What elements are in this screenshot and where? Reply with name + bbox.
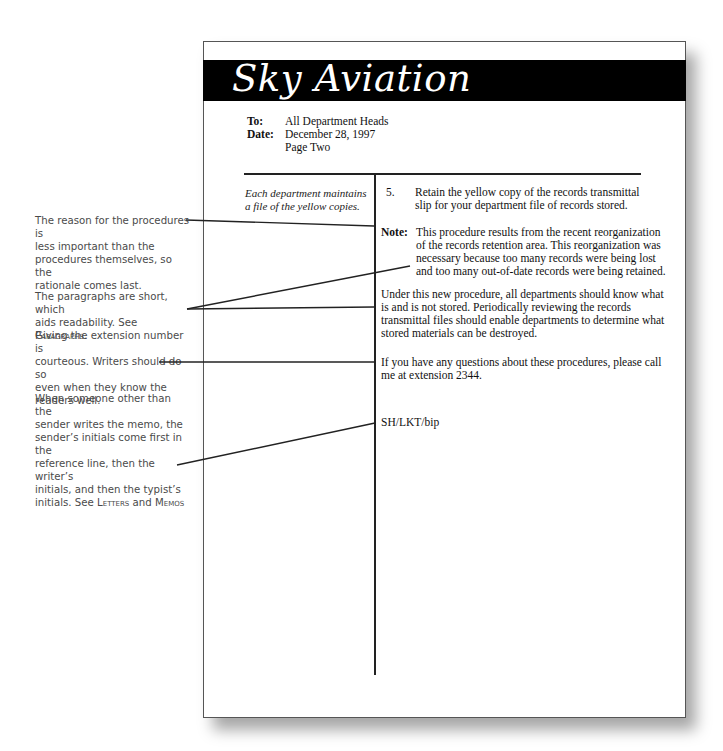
annotation-leader-lines	[0, 0, 723, 751]
leader-line-initials	[177, 423, 375, 465]
leader-line-paragraphs-a	[187, 266, 410, 309]
leader-line-rationale	[186, 220, 374, 226]
leader-line-paragraphs-b	[187, 307, 374, 309]
